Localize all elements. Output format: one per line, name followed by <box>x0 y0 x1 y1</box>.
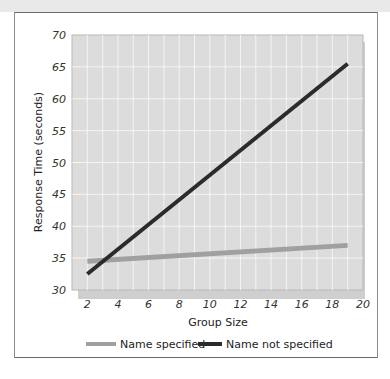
y-tick-label: 50 <box>52 157 66 170</box>
legend-label-name-not-specified: Name not specified <box>226 338 333 351</box>
x-tick-label: 18 <box>325 298 339 311</box>
x-tick-label: 4 <box>114 298 121 311</box>
y-tick-label: 40 <box>52 220 66 233</box>
x-tick-label: 20 <box>356 298 370 311</box>
x-tick-label: 6 <box>145 298 152 311</box>
legend-swatch-name-specified <box>86 342 116 346</box>
x-tick-label: 10 <box>203 298 217 311</box>
x-tick-label: 16 <box>295 298 309 311</box>
x-tick-label: 8 <box>176 298 183 311</box>
y-tick-label: 35 <box>52 252 66 265</box>
x-axis-label: Group Size <box>188 316 248 329</box>
legend: Name specified Name not specified <box>86 338 333 351</box>
x-axis-ticks: 2468101214161820 <box>84 298 370 311</box>
legend-swatch-name-not-specified <box>198 342 222 346</box>
x-tick-label: 2 <box>84 298 91 311</box>
y-tick-label: 45 <box>52 188 66 201</box>
y-tick-label: 65 <box>52 61 66 74</box>
y-axis-ticks: 303540455055606570 <box>52 29 66 297</box>
x-tick-label: 12 <box>233 298 247 311</box>
y-tick-label: 30 <box>52 284 66 297</box>
y-axis-label: Response Time (seconds) <box>32 92 45 232</box>
x-tick-label: 14 <box>264 298 278 311</box>
legend-label-name-specified: Name specified <box>120 338 205 351</box>
y-tick-label: 70 <box>52 29 66 42</box>
y-tick-label: 60 <box>52 93 66 106</box>
y-tick-label: 55 <box>52 125 66 138</box>
line-chart: 303540455055606570 2468101214161820 Resp… <box>0 0 390 379</box>
